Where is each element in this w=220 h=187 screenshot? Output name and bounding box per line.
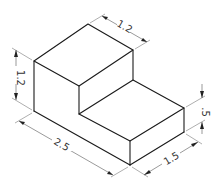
- dimension-step-depth: 1.5: [132, 134, 202, 177]
- upper-block-top-face: [34, 24, 133, 86]
- dim-label-overall-height: 1.2: [15, 70, 26, 86]
- dim-label-step-height: .5: [200, 107, 211, 117]
- dimension-upper-depth: 1.2: [90, 14, 150, 49]
- dimension-overall-height: 1.2: [10, 48, 32, 110]
- dimension-step-height: .5: [186, 84, 211, 134]
- step-top-face: [79, 80, 184, 141]
- isometric-drawing: 1.2 1.2 2.5 .5 1.5: [0, 0, 220, 187]
- dimension-overall-length: 2.5: [15, 113, 128, 177]
